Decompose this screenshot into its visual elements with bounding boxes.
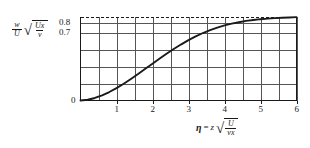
- x-tick-label-1: 1: [115, 104, 120, 114]
- x-axis-radicand-numerator: U: [226, 120, 236, 128]
- y-tick-label-0-7: 0.7: [59, 27, 70, 37]
- grid-lines: [81, 17, 298, 101]
- y-axis-radicand-fraction: Ux v: [33, 22, 46, 39]
- x-tick-label-5: 5: [259, 104, 264, 114]
- x-axis-label-radical: √ U vx: [216, 118, 238, 137]
- y-axis-label-denominator: U: [12, 29, 22, 38]
- x-axis-radicand-denominator: vx: [225, 128, 236, 137]
- y-tick-label-0: 0: [71, 95, 76, 105]
- x-tick-label-3: 3: [187, 104, 192, 114]
- radical-sign-icon: √: [24, 20, 32, 39]
- velocity-profile-curve: [81, 17, 297, 100]
- y-axis-label-numerator: w: [12, 21, 21, 29]
- x-tick-label-6: 6: [295, 104, 300, 114]
- x-axis-label: η = z √ U vx: [196, 118, 238, 137]
- x-tick-label-4: 4: [223, 104, 228, 114]
- y-axis-radicand-numerator: Ux: [33, 22, 46, 30]
- equals-sign: =: [202, 123, 211, 132]
- x-axis-label-radicand: U vx: [224, 118, 238, 137]
- x-axis-radicand-fraction: U vx: [225, 120, 236, 137]
- y-tick-label-0-8: 0.8: [59, 17, 70, 27]
- y-axis-label-radicand: Ux v: [32, 20, 48, 39]
- blasius-vertical-velocity-figure: 0.8 0.7 0 123456 w U √ Ux v η = z √: [0, 0, 310, 148]
- z-variable: z: [211, 123, 215, 132]
- y-axis-radicand-denominator: v: [36, 30, 44, 39]
- y-axis-label-radical: √ Ux v: [24, 20, 49, 39]
- x-tick-label-2: 2: [151, 104, 156, 114]
- radical-sign-icon: √: [216, 118, 224, 137]
- y-axis-label-fraction: w U: [12, 21, 22, 38]
- data-curve: [81, 17, 297, 100]
- y-axis-label: w U √ Ux v: [12, 20, 48, 39]
